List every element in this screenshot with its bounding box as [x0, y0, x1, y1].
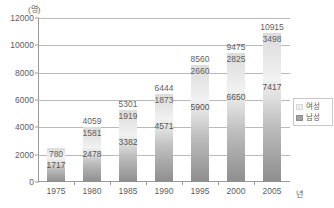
bar-group-1995: 5900266085601995: [191, 65, 209, 182]
legend-label-female: 여성: [306, 102, 320, 111]
male-swatch-icon: [296, 115, 303, 121]
x-tick-mark: [110, 182, 111, 185]
bar-segment-male: [263, 81, 281, 182]
value-label-total: 4059: [72, 116, 112, 126]
value-label-total: 10915: [252, 22, 292, 32]
x-tick-label-1980: 1980: [72, 186, 112, 196]
legend-label-male: 남성: [306, 113, 320, 122]
value-label-female: 3498: [252, 34, 292, 44]
value-label-total: 9475: [216, 42, 256, 52]
bar-segment-male: [227, 91, 245, 182]
y-tick-label: 6000: [15, 95, 34, 105]
stacked-bar-chart: (명) 020004000600080001000012000171778019…: [0, 0, 334, 208]
y-tick-mark: [35, 127, 39, 128]
value-label-male: 1717: [36, 160, 76, 170]
x-axis-title: 년: [296, 188, 303, 199]
bar-group-2000: 6650282594752000: [227, 53, 245, 182]
value-label-female: 2825: [216, 54, 256, 64]
value-label-total: 8560: [180, 54, 220, 64]
x-tick-label-2000: 2000: [216, 186, 256, 196]
legend-item-male: 남성: [296, 112, 330, 123]
bar-group-2005: 74173498109152005: [263, 33, 281, 182]
bar-group-1980: 2478158140591980: [83, 127, 101, 182]
value-label-male: 3382: [108, 137, 148, 147]
value-label-male: 7417: [252, 82, 292, 92]
y-tick-mark: [35, 18, 39, 19]
value-label-female: 780: [36, 149, 76, 159]
bar-group-1975: 17177801975: [47, 148, 65, 182]
y-tick-mark: [35, 182, 39, 183]
value-label-female: 1873: [144, 95, 184, 105]
x-tick-label-2005: 2005: [252, 186, 292, 196]
x-tick-mark: [146, 182, 147, 185]
value-label-total: 6444: [144, 83, 184, 93]
female-swatch-icon: [296, 104, 303, 110]
value-label-male: 5900: [180, 102, 220, 112]
bar-group-1990: 4571187364441990: [155, 94, 173, 182]
y-tick-label: 0: [29, 177, 34, 187]
value-label-female: 2660: [180, 66, 220, 76]
x-tick-label-1975: 1975: [36, 186, 76, 196]
y-tick-label: 2000: [15, 150, 34, 160]
y-tick-label: 8000: [15, 68, 34, 78]
y-tick-label: 12000: [10, 13, 34, 23]
plot-area: 0200040006000800010000120001717780197524…: [38, 18, 290, 182]
value-label-male: 4571: [144, 121, 184, 131]
legend: 여성 남성: [293, 98, 333, 126]
y-tick-label: 10000: [10, 40, 34, 50]
value-label-male: 2478: [72, 149, 112, 159]
y-tick-mark: [35, 45, 39, 46]
gridline: [38, 73, 290, 74]
value-label-total: 5301: [108, 99, 148, 109]
gridline: [38, 18, 290, 19]
value-label-female: 1581: [72, 128, 112, 138]
x-tick-label-1995: 1995: [180, 186, 220, 196]
value-label-female: 1919: [108, 111, 148, 121]
bar-segment-male: [191, 101, 209, 182]
x-tick-label-1985: 1985: [108, 186, 148, 196]
value-label-male: 6650: [216, 92, 256, 102]
legend-item-female: 여성: [296, 101, 330, 112]
x-tick-label-1990: 1990: [144, 186, 184, 196]
y-tick-mark: [35, 72, 39, 73]
x-tick-mark: [254, 182, 255, 185]
y-tick-label: 4000: [15, 122, 34, 132]
x-tick-mark: [182, 182, 183, 185]
y-tick-mark: [35, 100, 39, 101]
bar-group-1985: 3382191953011985: [119, 110, 137, 182]
